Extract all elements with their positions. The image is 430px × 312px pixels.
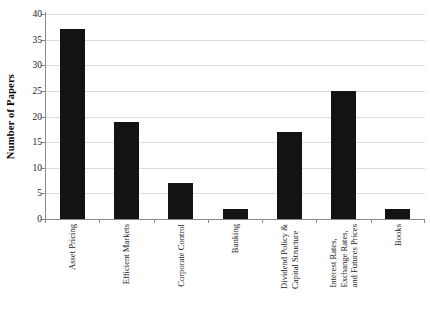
gridline (45, 91, 425, 92)
y-axis-tick-label: 5 (2, 188, 42, 198)
x-axis-label-line: Capital Structure (289, 224, 300, 289)
y-axis-line (45, 12, 46, 221)
bar (277, 132, 302, 219)
bar (331, 91, 356, 219)
x-axis-label-slot: Books (371, 224, 425, 312)
y-axis-tick-label: 35 (2, 35, 42, 45)
x-axis-label-line: Corporate Control (175, 224, 186, 287)
x-axis-label-slot: Asset Pricing (45, 224, 99, 312)
y-axis-tick-label: 10 (2, 163, 42, 173)
y-axis-tick-label: 20 (2, 112, 42, 122)
x-axis-label-line: Asset Pricing (67, 224, 78, 270)
x-axis-label: Efficient Markets (121, 224, 132, 284)
bar (60, 29, 85, 219)
x-axis-label-line: Efficient Markets (121, 224, 132, 284)
x-axis-label-slot: Efficient Markets (99, 224, 153, 312)
x-axis-label-slot: Dividend Policy &Capital Structure (262, 224, 316, 312)
x-axis-labels-group: Asset PricingEfficient MarketsCorporate … (45, 224, 425, 312)
bar (168, 183, 193, 219)
x-axis-label-line: Exchange Rates, (338, 224, 349, 288)
y-axis-tick-label: 25 (2, 86, 42, 96)
x-axis-label-slot: Banking (208, 224, 262, 312)
bar-chart-figure: Number of Papers 0510152025303540 Asset … (0, 0, 430, 312)
x-axis-label: Interest Rates,Exchange Rates,and Future… (328, 224, 360, 288)
gridline (45, 168, 425, 169)
gridline (45, 117, 425, 118)
plot-area: 0510152025303540 (45, 14, 425, 219)
y-axis-tick-label: 40 (2, 9, 42, 19)
y-axis-tick-label: 0 (2, 214, 42, 224)
gridline (45, 14, 425, 15)
gridline (45, 193, 425, 194)
x-axis-label-line: Dividend Policy & (279, 224, 290, 289)
x-axis-label: Books (393, 224, 404, 246)
x-axis-label-slot: Interest Rates,Exchange Rates,and Future… (316, 224, 370, 312)
x-axis-label: Dividend Policy &Capital Structure (279, 224, 300, 289)
x-axis-label-line: Banking (230, 224, 241, 253)
bar (385, 209, 410, 219)
x-axis-label: Banking (230, 224, 241, 253)
y-axis-tick-label: 15 (2, 137, 42, 147)
gridline (45, 40, 425, 41)
x-axis-label-line: Books (393, 224, 404, 246)
gridline (45, 142, 425, 143)
x-axis-label-line: Interest Rates, (328, 224, 339, 288)
gridline (45, 65, 425, 66)
x-axis-label-line: and Futures Prices (349, 224, 360, 288)
x-axis-line (45, 219, 425, 220)
x-axis-label-slot: Corporate Control (154, 224, 208, 312)
x-axis-label: Corporate Control (175, 224, 186, 287)
y-axis-tick-label: 30 (2, 60, 42, 70)
x-axis-label: Asset Pricing (67, 224, 78, 270)
bar (223, 209, 248, 219)
bar (114, 122, 139, 219)
